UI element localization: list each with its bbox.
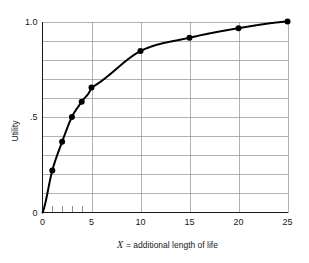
data-point	[49, 167, 55, 173]
data-point	[69, 114, 75, 120]
data-point	[59, 139, 65, 145]
y-tick-label: 1.0	[25, 17, 38, 27]
x-tick-label: 25	[282, 217, 292, 227]
chart-figure: 0.51.0 0510152025 Utility X = additional…	[0, 0, 309, 263]
data-point	[89, 84, 95, 90]
utility-curve-chart: 0.51.0 0510152025 Utility X = additional…	[0, 0, 309, 263]
x-axis-title-variable: X	[116, 239, 124, 250]
x-tick-label: 20	[233, 217, 243, 227]
data-point	[285, 19, 291, 25]
data-point	[236, 25, 242, 31]
y-tick-label: 0	[32, 208, 37, 218]
x-axis-title-text: = additional length of life	[126, 240, 218, 250]
x-tick-label: 15	[184, 217, 194, 227]
x-tick-label: 5	[89, 217, 94, 227]
y-axis-title: Utility	[10, 120, 20, 142]
data-point	[138, 48, 144, 54]
x-tick-label: 10	[135, 217, 145, 227]
data-point	[79, 99, 85, 105]
data-point	[187, 35, 193, 41]
y-tick-label: .5	[30, 112, 38, 122]
x-tick-label: 0	[40, 217, 45, 227]
chart-background	[0, 0, 309, 263]
